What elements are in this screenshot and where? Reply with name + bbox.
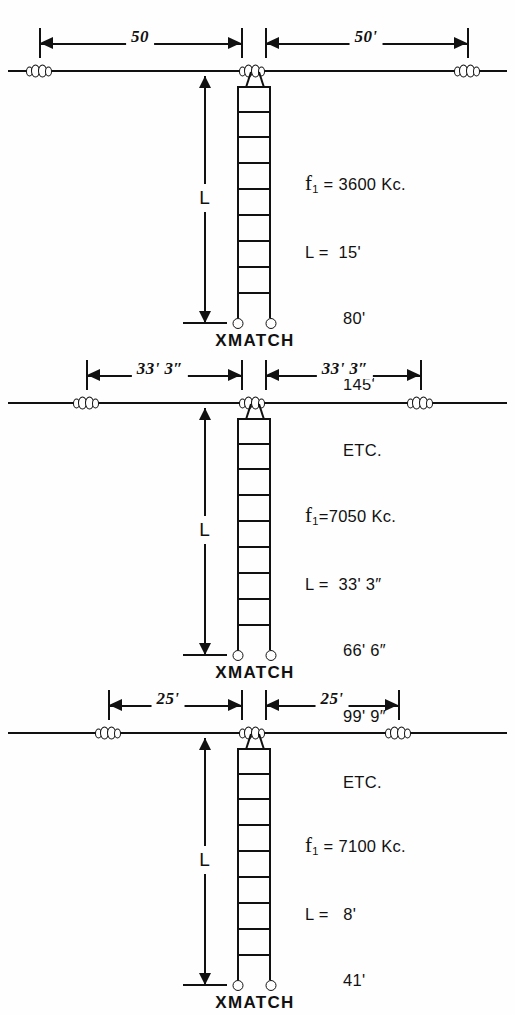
- ladder-rung: [237, 773, 271, 775]
- diagram-sheet: 50 50': [0, 0, 515, 1015]
- ladder-rung: [237, 748, 271, 750]
- feed-terminal-right-2: [266, 650, 277, 661]
- end-insulator-left-3: [97, 727, 121, 740]
- spec-frequency-row-3: f1 = 7100 Kc.: [305, 834, 406, 859]
- dim-arrow-left-start: [87, 369, 100, 381]
- feed-terminal-left-2: [233, 650, 244, 661]
- ladder-rung: [237, 494, 271, 496]
- xmatch-label-2: XMATCH: [215, 663, 294, 683]
- ladder-rung: [237, 928, 271, 930]
- spec-frequency-row-1: f1 = 3600 Kc.: [305, 172, 406, 197]
- dimension-row-1: 50 50': [0, 26, 515, 60]
- antenna-diagram-2: 33' 3″ 33' 3″: [0, 358, 515, 683]
- spec-length-row-3b: 41': [305, 969, 406, 991]
- dim-arrow-right-start: [266, 699, 279, 711]
- ladder-rung: [237, 468, 271, 470]
- dim-tick-center-left: [241, 690, 243, 720]
- length-arrow-up: [199, 738, 211, 750]
- dim-arrow-right-end: [385, 699, 398, 711]
- end-insulator-right-3: [387, 727, 411, 740]
- ladder-rung: [237, 443, 271, 445]
- feed-terminal-right-3: [266, 980, 277, 991]
- length-value-3a: 8': [343, 905, 356, 923]
- spec-length-row-2: L = 33' 3″: [305, 573, 396, 595]
- dim-tick-center-left: [241, 360, 243, 390]
- dimension-label-left-2: 33' 3″: [132, 359, 188, 379]
- xmatch-label-1: XMATCH: [215, 331, 294, 351]
- length-arrow-up: [199, 76, 211, 88]
- length-prefix-3: L =: [305, 905, 329, 923]
- ladder-rung: [237, 902, 271, 904]
- feed-terminal-right-1: [266, 318, 277, 329]
- dim-tick-right: [467, 28, 469, 58]
- end-insulator-left-1: [28, 65, 52, 78]
- ladder-rail-right: [269, 418, 271, 650]
- length-dim-label-2: L: [193, 516, 217, 544]
- ladder-line-2: [237, 418, 271, 650]
- dim-arrow-right-start: [266, 37, 279, 49]
- ladder-rung: [237, 240, 271, 242]
- spec-frequency-row-2: f1=7050 Kc.: [305, 504, 396, 529]
- ladder-rail-left: [237, 748, 239, 980]
- length-value-1b: 80': [343, 309, 365, 327]
- ladder-rung: [237, 876, 271, 878]
- length-base-bar-2: [183, 654, 227, 656]
- ladder-rung: [237, 111, 271, 113]
- ladder-rung: [237, 86, 271, 88]
- length-dim-label-1: L: [193, 184, 217, 212]
- spec-length-row-3: L = 8': [305, 903, 406, 925]
- feed-terminal-left-3: [233, 980, 244, 991]
- antenna-diagram-1: 50 50': [0, 26, 515, 351]
- dim-tick-right: [398, 690, 400, 720]
- antenna-diagram-3: 25' 25': [0, 688, 515, 1013]
- length-dimension-1: L: [204, 76, 206, 323]
- dimension-label-left-3: 25': [152, 689, 185, 709]
- ladder-rung: [237, 624, 271, 626]
- dimension-row-2: 33' 3″ 33' 3″: [0, 358, 515, 392]
- end-insulator-left-2: [75, 397, 99, 410]
- ladder-rail-right: [269, 86, 271, 318]
- dim-arrow-right-end: [454, 37, 467, 49]
- dim-arrow-right-start: [266, 369, 279, 381]
- frequency-subscript: 1: [312, 515, 318, 527]
- frequency-subscript: 1: [312, 845, 318, 857]
- frequency-value-1: 3600 Kc.: [338, 175, 406, 193]
- length-value-3b: 41': [343, 971, 365, 989]
- ladder-rail-left: [237, 86, 239, 318]
- dim-arrow-left-start: [40, 37, 53, 49]
- spec-length-row-1b: 80': [305, 307, 406, 329]
- dim-tick-center-left: [241, 28, 243, 58]
- length-value-2b: 66' 6″: [343, 641, 386, 659]
- ladder-rung: [237, 418, 271, 420]
- frequency-value-2: 7050 Kc.: [329, 507, 397, 525]
- length-base-bar-3: [183, 984, 227, 986]
- spec-block-3: f1 = 7100 Kc. L = 8' 41' 74' ETC.: [305, 790, 406, 1015]
- end-insulator-right-2: [409, 397, 433, 410]
- length-prefix-1: L =: [305, 243, 329, 261]
- frequency-subscript: 1: [312, 183, 318, 195]
- ladder-rung: [237, 162, 271, 164]
- ladder-rung: [237, 266, 271, 268]
- dim-arrow-left-start: [109, 699, 122, 711]
- length-arrow-up: [199, 408, 211, 420]
- ladder-rung: [237, 292, 271, 294]
- ladder-line-3: [237, 748, 271, 980]
- dim-arrow-left-end: [228, 369, 241, 381]
- dimension-label-right-1: 50': [350, 27, 383, 47]
- xmatch-label-3: XMATCH: [215, 993, 294, 1013]
- ladder-rung: [237, 214, 271, 216]
- dimension-label-right-2: 33' 3″: [317, 359, 373, 379]
- ladder-rung: [237, 188, 271, 190]
- ladder-rung: [237, 954, 271, 956]
- dimension-label-left-1: 50: [126, 27, 154, 47]
- dimension-label-right-3: 25': [316, 689, 349, 709]
- length-prefix-2: L =: [305, 575, 329, 593]
- ladder-rung: [237, 572, 271, 574]
- feed-terminal-left-1: [233, 318, 244, 329]
- ladder-rung: [237, 798, 271, 800]
- ladder-rail-left: [237, 418, 239, 650]
- ladder-rung: [237, 824, 271, 826]
- length-dimension-3: L: [204, 738, 206, 985]
- spec-length-row-2b: 66' 6″: [305, 639, 396, 661]
- ladder-rung: [237, 520, 271, 522]
